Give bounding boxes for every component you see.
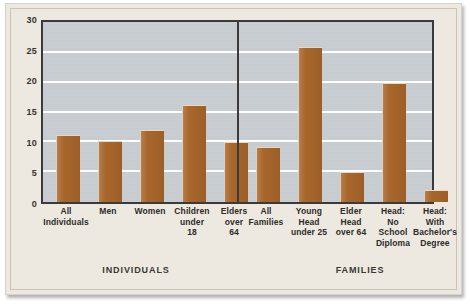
- y-tick-5: 5: [11, 168, 37, 178]
- x-label-line: 64: [211, 227, 257, 238]
- screenshot-root: 30 25 20 15 10 5 0: [0, 0, 470, 304]
- bar-elders-over-64: [224, 142, 248, 202]
- y-axis: 30 25 20 15 10 5 0: [7, 20, 37, 204]
- x-label-line: Individuals: [37, 217, 95, 228]
- group-caption-individuals: INDIVIDUALS: [71, 265, 201, 275]
- bar-head-bachelors-degree: [424, 190, 448, 202]
- x-label-children-under-18: Children under 18: [167, 206, 217, 238]
- x-label-line: under: [167, 217, 217, 228]
- x-label-line: Bachelor's: [404, 227, 466, 238]
- x-label-head-bachelors-degree: Head: With Bachelor's Degree: [404, 206, 466, 248]
- x-label-line: 18: [167, 227, 217, 238]
- x-label-line: With: [404, 217, 466, 228]
- group-caption-families: FAMILIES: [300, 265, 420, 275]
- bar-all-families: [256, 147, 280, 202]
- bar-elder-head-over-64: [340, 172, 364, 202]
- bar-head-no-school-diploma: [382, 83, 406, 202]
- x-label-line: Degree: [404, 238, 466, 249]
- y-tick-10: 10: [11, 138, 37, 148]
- x-label-line: Head:: [404, 206, 466, 217]
- y-tick-25: 25: [11, 46, 37, 56]
- x-axis-labels: All Individuals Men Women Children under…: [41, 206, 434, 258]
- y-tick-0: 0: [11, 199, 37, 209]
- y-tick-30: 30: [11, 15, 37, 25]
- bar-young-head-under-25: [298, 47, 322, 202]
- bar-all-individuals: [56, 135, 80, 202]
- x-label-line: Children: [167, 206, 217, 217]
- plot-area: [41, 20, 434, 204]
- bar-women: [140, 130, 164, 202]
- bar-men: [98, 141, 122, 202]
- bar-children-under-18: [182, 105, 206, 202]
- bar-chart-figure: 30 25 20 15 10 5 0: [5, 3, 460, 293]
- y-tick-20: 20: [11, 76, 37, 86]
- group-divider: [237, 22, 239, 202]
- y-tick-15: 15: [11, 107, 37, 117]
